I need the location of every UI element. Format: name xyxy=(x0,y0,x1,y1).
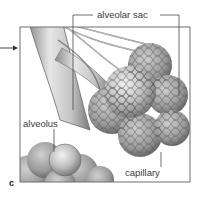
alveolar-sac-label: alveolar sac xyxy=(96,10,149,20)
arrow-head-icon xyxy=(13,46,18,51)
alveolar-sac-cluster xyxy=(88,43,190,157)
tissue-art xyxy=(10,20,190,198)
illustration-canvas xyxy=(0,0,202,198)
alveolus-label: alveolus xyxy=(22,119,59,129)
panel-letter: c xyxy=(8,178,15,188)
capillary-label: capillary xyxy=(124,168,161,178)
alveoli-illustration: alveolar sac alveolus capillary c xyxy=(0,0,202,198)
alveolus-cluster xyxy=(10,142,114,198)
